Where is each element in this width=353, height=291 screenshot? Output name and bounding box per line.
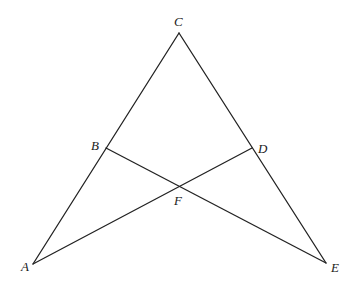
label-c: C (174, 14, 183, 29)
segment-ad (33, 148, 252, 264)
label-e: E (330, 260, 339, 275)
label-d: D (257, 141, 268, 156)
segment-be (106, 148, 326, 263)
label-b: B (91, 138, 99, 153)
label-f: F (173, 193, 183, 208)
label-a: A (20, 259, 29, 274)
geometry-diagram: A B C D E F (0, 0, 353, 291)
